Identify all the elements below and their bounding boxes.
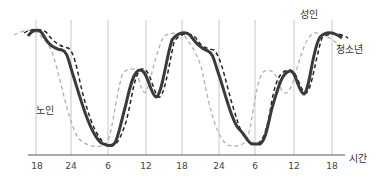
x-tick: 12 — [288, 161, 299, 171]
label-teen: 청소년 — [336, 41, 363, 56]
x-tick: 24 — [65, 161, 76, 171]
series-adult — [28, 30, 342, 145]
x-tick: 12 — [140, 161, 151, 171]
x-tick: 18 — [326, 161, 337, 171]
x-tick: 24 — [213, 161, 224, 171]
x-tick: 18 — [176, 161, 187, 171]
axis-label-time: 시간 — [349, 150, 367, 165]
sleep-cycle-chart: 성인 청소년 노인 시간 18 24 6 12 18 24 6 12 18 — [0, 0, 379, 185]
x-tick: 18 — [31, 161, 42, 171]
chart-canvas — [0, 0, 379, 185]
series-elderly — [14, 30, 338, 146]
gridlines — [36, 20, 332, 155]
label-elderly: 노인 — [36, 102, 54, 117]
label-adult: 성인 — [300, 6, 318, 21]
x-tick: 6 — [105, 161, 111, 171]
x-tick: 6 — [252, 161, 258, 171]
